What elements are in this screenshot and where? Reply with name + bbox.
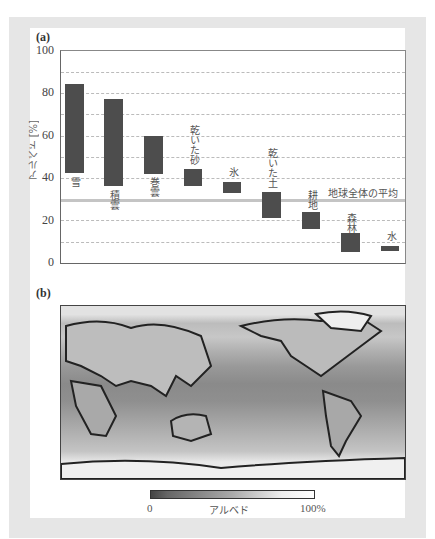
category-label-cirrus: 巻雲: [148, 177, 158, 197]
bar-cirrus: [144, 136, 163, 174]
bar-cumulus: [104, 99, 123, 186]
albedo-colorbar: [150, 490, 315, 499]
bar-ice: [223, 182, 241, 193]
global-average-label: 地球全体の平均: [328, 185, 398, 200]
category-label-dry-sand: 乾いた砂: [188, 125, 198, 165]
panel-b-label: (b): [36, 286, 51, 301]
category-label-dry-soil: 乾いた土: [266, 148, 276, 188]
bar-farmland: [302, 212, 320, 229]
colorbar-max-label: 100%: [300, 502, 326, 514]
colorbar-title: アルベド: [209, 502, 249, 517]
coastline-outline-icon: [61, 306, 405, 479]
y-tick-20: 20: [24, 213, 54, 228]
bar-water: [381, 246, 399, 251]
y-axis-label: アルベド [%]: [26, 120, 41, 180]
bar-dry-sand: [184, 169, 202, 186]
bar-snow: [65, 84, 84, 173]
bar-forest: [341, 233, 360, 252]
bar-chart-plot-area: 雪 積雲 巻雲 乾いた砂 氷 乾いた土 耕地 森林 水 地球全体の平均: [60, 50, 406, 264]
colorbar-min-label: 0: [147, 502, 153, 514]
category-label-water: 水: [385, 231, 395, 241]
category-label-farmland: 耕地: [306, 190, 316, 210]
gridline: [61, 72, 405, 73]
albedo-world-map: [60, 305, 406, 480]
category-label-ice: 氷: [227, 167, 237, 177]
bar-dry-soil: [262, 192, 281, 218]
category-label-snow: 雪: [69, 177, 79, 187]
gridline: [61, 93, 405, 94]
category-label-cumulus: 積雲: [108, 190, 118, 210]
category-label-forest: 森林: [345, 213, 355, 233]
y-tick-0: 0: [24, 255, 54, 270]
y-tick-100: 100: [24, 43, 54, 58]
y-tick-80: 80: [24, 85, 54, 100]
